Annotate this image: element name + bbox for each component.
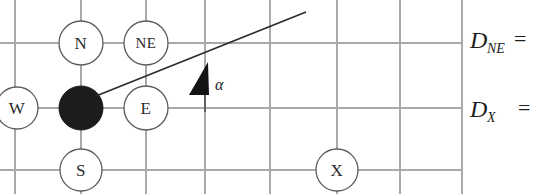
grid-diagram: N NE W E S X xyxy=(0,0,539,194)
annotation-d-ne: D NE = xyxy=(469,26,526,56)
node-e[interactable]: E xyxy=(124,86,168,130)
node-label-s: S xyxy=(76,161,86,180)
node-w[interactable]: W xyxy=(0,87,38,129)
node-label-e: E xyxy=(141,99,152,118)
node-n[interactable]: N xyxy=(59,21,103,65)
angle-arrow-marker xyxy=(189,62,209,112)
node-center-occupied[interactable] xyxy=(59,86,103,130)
node-label-ne: NE xyxy=(136,35,157,51)
annotation-d-ne-base: D xyxy=(469,27,487,53)
arrow-head-icon xyxy=(189,62,209,95)
angle-alpha-label: α xyxy=(215,76,224,93)
annotation-d-x-equals: = xyxy=(518,95,530,120)
node-s[interactable]: S xyxy=(60,149,102,191)
annotation-d-ne-subscript: NE xyxy=(486,41,505,56)
node-x[interactable]: X xyxy=(316,149,358,191)
annotation-d-x-base: D xyxy=(469,96,487,122)
annotation-d-x-subscript: X xyxy=(486,110,496,125)
figure-canvas: N NE W E S X xyxy=(0,0,539,194)
occupied-node-circle[interactable] xyxy=(59,86,103,130)
annotation-d-ne-equals: = xyxy=(514,26,526,51)
node-label-w: W xyxy=(9,99,26,118)
node-group: N NE W E S X xyxy=(0,21,358,191)
node-label-x: X xyxy=(331,161,344,180)
annotation-d-x: D X = xyxy=(469,95,530,125)
node-label-n: N xyxy=(75,34,88,53)
node-ne[interactable]: NE xyxy=(124,21,168,65)
